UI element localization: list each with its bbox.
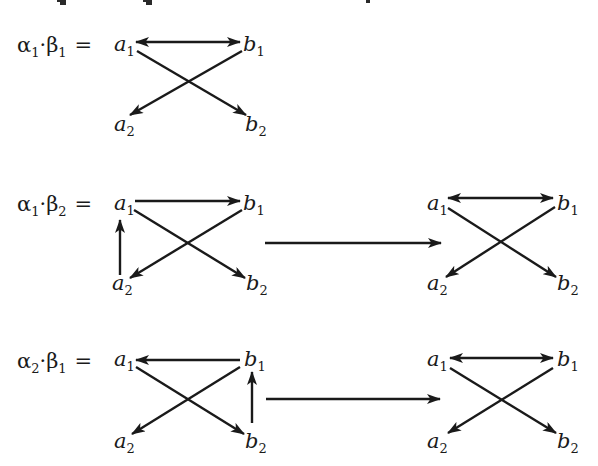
node-b2: b2 [557,271,579,298]
edge-a1-to-b2 [134,210,245,278]
row-label: α1·β1= [17,33,92,60]
left-graph: a1 b1 a2 b2 [114,347,267,456]
node-a1: a1 [114,191,135,218]
node-b1: b1 [243,191,265,218]
node-a2: a2 [112,271,133,298]
node-a1: a1 [427,191,448,218]
node-a1: a1 [114,347,135,374]
row-alpha2-beta1: α2·β1= a1 b1 a2 b2 a1 b1 a2 b2 [17,347,579,456]
edge-a1-to-b2 [137,51,246,115]
left-graph: a1 b1 a2 b2 [114,32,267,139]
node-a1: a1 [427,347,448,374]
row-alpha1-beta1: α1·β1= a1 b1 a2 b2 [17,32,267,139]
edge-b1-to-a2 [132,367,240,434]
node-b1: b1 [243,32,265,59]
right-graph: a1 b1 a2 b2 [427,347,579,456]
node-a1: a1 [114,32,135,59]
graph-composition-diagram: α1·β1= a1 b1 a2 b2 α1·β2= a1 b1 a2 b2 a1 [0,0,598,466]
node-a2: a2 [427,429,448,456]
node-b2: b2 [245,112,267,139]
node-b2: b2 [246,271,268,298]
right-graph: a1 b1 a2 b2 [427,191,579,298]
node-b1: b1 [244,347,266,374]
node-b1: b1 [557,191,579,218]
node-b2: b2 [557,429,579,456]
edge-b1-to-a2 [130,51,242,115]
node-a2: a2 [427,271,448,298]
node-b2: b2 [245,429,267,456]
left-graph: a1 b1 a2 b2 [112,191,268,298]
node-a2: a2 [114,112,135,139]
cut-off-text-fragment [57,0,370,5]
row-alpha1-beta2: α1·β2= a1 b1 a2 b2 a1 b1 a2 b2 [17,191,579,298]
row-label: α2·β1= [17,349,92,376]
row-label: α1·β2= [17,192,92,219]
edge-b1-to-a2 [130,210,242,278]
edge-a1-to-b2 [136,367,244,434]
node-b1: b1 [557,347,579,374]
